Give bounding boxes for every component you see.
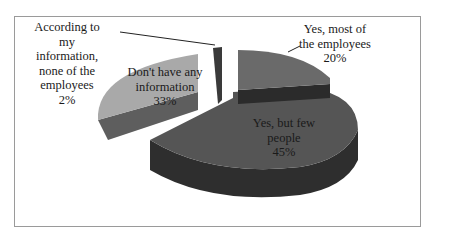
label-few-people: Yes, but few people 45% — [242, 116, 326, 160]
label-most-employees: Yes, most of the employees 20% — [290, 22, 380, 66]
label-line: information, — [26, 49, 108, 64]
label-line: none of the — [26, 64, 108, 79]
slice-none-employees — [213, 47, 222, 104]
label-line: the employees — [290, 37, 380, 52]
label-line: Don't have any — [124, 65, 206, 80]
label-percent: 20% — [290, 51, 380, 66]
label-none-employees: According to my information, none of the… — [26, 20, 108, 107]
label-line: According to — [26, 20, 108, 35]
label-line: information — [124, 80, 206, 95]
label-line: employees — [26, 78, 108, 93]
label-no-information: Don't have any information 33% — [124, 65, 206, 109]
label-percent: 33% — [124, 94, 206, 109]
label-line: Yes, but few — [242, 116, 326, 131]
label-percent: 45% — [242, 145, 326, 160]
label-line: Yes, most of — [290, 22, 380, 37]
leader-line-none — [120, 32, 215, 45]
label-line: my — [26, 35, 108, 50]
label-line: people — [242, 131, 326, 146]
label-percent: 2% — [26, 93, 108, 108]
